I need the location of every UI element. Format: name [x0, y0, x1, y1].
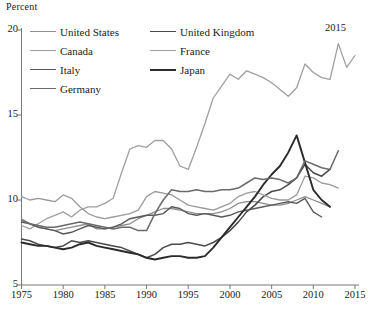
legend-item-italy[interactable]: Italy — [30, 64, 150, 76]
legend-swatch-icon — [150, 50, 176, 51]
end-year-annotation: 2015 — [325, 22, 346, 33]
legend-label: France — [180, 45, 210, 57]
legend-item-united-kingdom[interactable]: United Kingdom — [150, 26, 270, 38]
y-tick-label-10: 10 — [0, 193, 18, 204]
legend-item-united-states[interactable]: United States — [30, 26, 150, 38]
y-tick-label-15: 15 — [0, 108, 18, 119]
series-line-germany — [22, 151, 339, 231]
legend-label: Japan — [180, 64, 205, 76]
x-tick-label-1980: 1980 — [45, 289, 81, 300]
x-tick-label-1995: 1995 — [170, 289, 206, 300]
legend-row: United StatesUnited Kingdom — [30, 22, 270, 41]
x-tick-label-2010: 2010 — [295, 289, 331, 300]
legend-swatch-icon — [150, 31, 176, 32]
y-tick-label-5: 5 — [0, 278, 18, 289]
legend-swatch-icon — [30, 50, 56, 51]
series-line-united-states — [22, 197, 330, 231]
legend-swatch-icon — [30, 31, 56, 32]
legend-item-france[interactable]: France — [150, 45, 270, 57]
legend-label: Germany — [60, 83, 101, 95]
legend-swatch-icon — [30, 69, 56, 70]
legend-row: ItalyJapan — [30, 60, 270, 79]
chart-legend: United StatesUnited KingdomCanadaFranceI… — [30, 22, 270, 98]
x-tick-label-1990: 1990 — [129, 289, 165, 300]
x-tick-label-1985: 1985 — [87, 289, 123, 300]
legend-row: Germany — [30, 79, 270, 98]
legend-item-japan[interactable]: Japan — [150, 64, 270, 76]
x-tick-label-2015: 2015 — [337, 289, 368, 300]
legend-item-canada[interactable]: Canada — [30, 45, 150, 57]
legend-label: Canada — [60, 45, 93, 57]
legend-label: United Kingdom — [180, 26, 254, 38]
x-tick-label-2000: 2000 — [212, 289, 248, 300]
legend-label: United States — [60, 26, 119, 38]
x-tick-label-1975: 1975 — [4, 289, 40, 300]
x-tick-label-2005: 2005 — [254, 289, 290, 300]
series-line-united-kingdom — [22, 164, 330, 257]
legend-swatch-icon — [30, 88, 56, 89]
legend-swatch-icon — [150, 69, 176, 71]
legend-label: Italy — [60, 64, 80, 76]
legend-row: CanadaFrance — [30, 41, 270, 60]
legend-item-germany[interactable]: Germany — [30, 83, 158, 95]
y-tick-label-20: 20 — [0, 23, 18, 34]
line-chart: Percent 5101520 197519801985199019952000… — [0, 0, 368, 309]
